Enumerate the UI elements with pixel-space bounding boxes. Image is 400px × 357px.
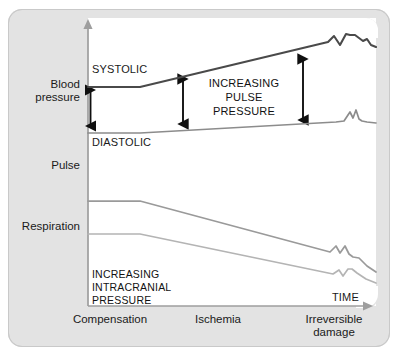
curve-pulse (88, 201, 376, 272)
curve-respiration (88, 234, 376, 283)
chart-vector-layer (0, 0, 400, 357)
curve-systolic (88, 34, 376, 87)
cushings-triad-chart: Blood pressure Pulse Respiration SYSTOLI… (0, 0, 400, 357)
curve-diastolic (88, 110, 376, 133)
